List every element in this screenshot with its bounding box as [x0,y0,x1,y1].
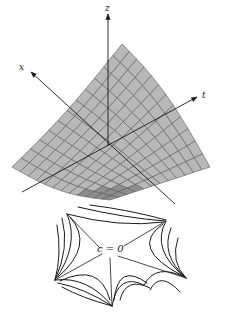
contour-plot [55,205,186,306]
x-axis-label: x [19,62,24,72]
surface-figure: z x t c = 0 [0,0,225,327]
z-axis-label: z [104,3,110,13]
contour-level-label: c = 0 [97,243,124,254]
surface-mesh [12,44,210,200]
t-axis-label: t [202,90,206,100]
